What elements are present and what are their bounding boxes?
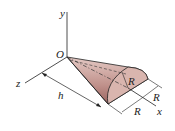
- x-axis-label: x: [156, 105, 162, 117]
- radius-face-label: R: [127, 75, 135, 87]
- radius-dim-1-label: R: [152, 91, 160, 103]
- height-label: h: [58, 89, 64, 101]
- r-extension-1: [148, 79, 162, 88]
- z-axis-label: z: [15, 77, 21, 89]
- half-cone-diagram: y z O R x h R R: [0, 0, 175, 131]
- h-arrow-end: [96, 103, 101, 107]
- r-extension-2: [108, 104, 122, 114]
- y-axis-label: y: [59, 7, 65, 19]
- h-arrow-start: [42, 73, 47, 77]
- z-axis: [25, 57, 67, 83]
- radius-dim-2-label: R: [133, 105, 141, 117]
- origin-label: O: [56, 48, 64, 60]
